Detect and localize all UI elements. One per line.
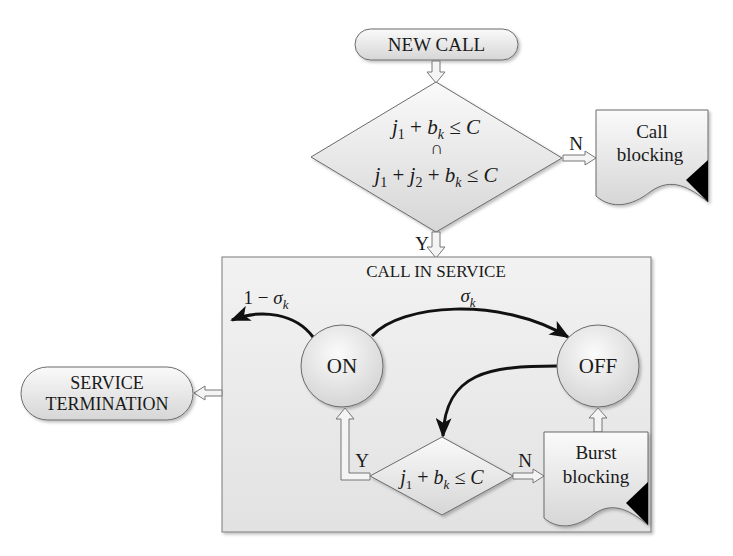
intersection-symbol: ∩ [431, 138, 444, 158]
on-state-circle: ON [301, 325, 383, 407]
burst-blocking-line1: Burst [575, 442, 617, 463]
new-call-terminator: NEW CALL [355, 29, 518, 60]
service-termination-line1: SERVICE [70, 373, 144, 393]
service-termination-terminator: SERVICE TERMINATION [21, 367, 193, 420]
burst-no-label: N [518, 450, 532, 471]
call-blocking-line1: Call [636, 121, 668, 142]
off-state-label: OFF [579, 354, 618, 378]
burst-yes-label: Y [355, 450, 369, 471]
call-in-service-title: CALL IN SERVICE [366, 262, 506, 281]
new-call-label: NEW CALL [388, 34, 485, 55]
hollow-arrow-down-icon [427, 61, 445, 83]
on-state-label: ON [327, 354, 357, 378]
admission-yes-label: Y [415, 233, 429, 254]
call-blocking-line2: blocking [617, 144, 684, 165]
admission-condition-2: j1 + j2 + bk ≤ C [371, 163, 498, 190]
burst-blocking-line2: blocking [563, 466, 630, 487]
flowchart-canvas: NEW CALL j1 + bk ≤ C ∩ j1 + j2 + bk ≤ C … [0, 0, 733, 556]
service-termination-line2: TERMINATION [46, 394, 169, 414]
burst-blocking-document: Burst blocking [544, 432, 648, 526]
admission-no-label: N [569, 133, 583, 154]
call-blocking-document: Call blocking [596, 110, 708, 205]
off-state-circle: OFF [557, 325, 639, 407]
hollow-arrow-left-icon [194, 386, 222, 400]
admission-check-diamond: j1 + bk ≤ C ∩ j1 + j2 + bk ≤ C [311, 82, 562, 232]
hollow-arrow-down-icon [427, 232, 445, 258]
